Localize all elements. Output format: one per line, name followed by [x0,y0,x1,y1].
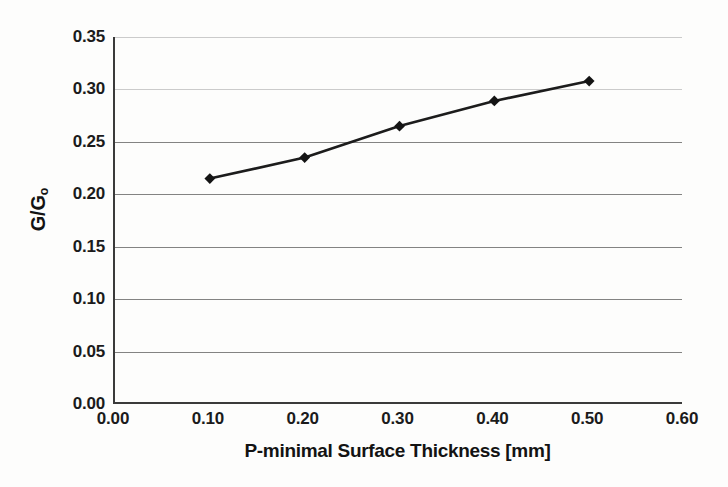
y-axis-tick-label: 0.10 [33,289,105,309]
y-axis-tick-label: 0.35 [33,27,105,47]
data-point-marker [394,121,405,132]
x-axis-tick-label: 0.20 [258,409,348,429]
y-axis-tick-label: 0.30 [33,79,105,99]
x-axis-tick-label: 0.30 [353,409,443,429]
x-axis-tick-label: 0.00 [68,409,158,429]
data-point-marker [299,152,310,163]
x-axis-tick-label: 0.60 [637,409,727,429]
data-point-marker [584,76,595,87]
x-axis-tick-label: 0.10 [163,409,253,429]
x-axis-tick-labels: 0.000.100.200.300.400.500.60 [0,409,728,437]
x-axis-tick-label: 0.40 [447,409,537,429]
y-axis-title: G/Go [27,150,50,270]
data-point-marker [204,173,215,184]
chart-figure: 0.000.050.100.150.200.250.300.35 G/Go 0.… [0,0,728,487]
plot-area [113,37,682,404]
y-axis-tick-label: 0.05 [33,342,105,362]
x-axis-tick-label: 0.50 [542,409,632,429]
x-axis-title: P-minimal Surface Thickness [mm] [113,440,682,462]
data-point-marker [489,96,500,107]
y-axis-title-main: G/G [27,195,49,231]
y-axis-title-subscript: o [36,188,50,195]
data-series [115,37,684,404]
